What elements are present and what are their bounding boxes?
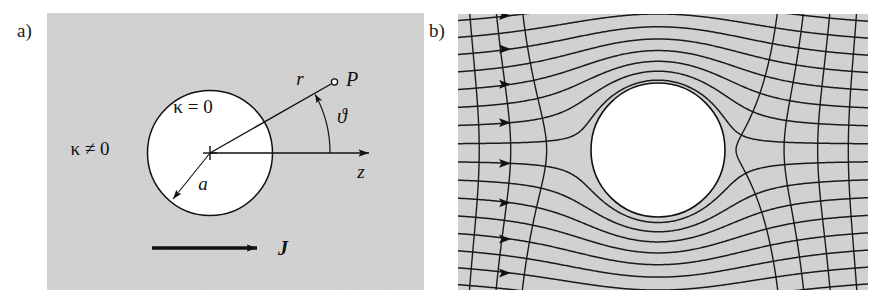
figure-container: a) b)	[0, 0, 884, 305]
point-p-marker	[331, 79, 337, 85]
z-label: z	[356, 161, 365, 182]
point-p-label: P	[345, 68, 358, 90]
inclusion-circle	[591, 83, 725, 217]
kappa-nonzero-label: κ ≠ 0	[70, 138, 109, 159]
panel-b-diagram	[458, 14, 868, 290]
theta-label: ϑ	[337, 105, 348, 127]
current-label: J	[277, 237, 289, 259]
panel-a-label: a)	[17, 20, 32, 42]
panel-a-diagram: κ ≠ 0 κ = 0 a r ϑ z P J	[47, 13, 424, 290]
kappa-zero-label: κ = 0	[173, 96, 212, 117]
radius-label: a	[198, 173, 208, 194]
panel-b-label: b)	[429, 20, 445, 42]
r-label: r	[296, 68, 304, 89]
